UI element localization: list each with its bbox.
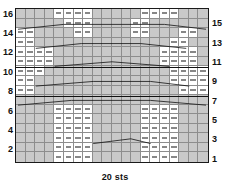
row-number-left-6: 6 [1, 107, 13, 116]
chart-area: 16 14 12 10 8 6 4 2 15 13 11 9 7 5 3 1 [0, 0, 230, 190]
knitting-chart-figure: 16 14 12 10 8 6 4 2 15 13 11 9 7 5 3 1 [0, 0, 230, 190]
row-number-right-13: 13 [212, 39, 228, 48]
row-number-right-3: 3 [212, 135, 228, 144]
row-number-right-15: 15 [212, 19, 228, 28]
row-number-left-10: 10 [1, 68, 13, 77]
row-number-right-5: 5 [212, 116, 228, 125]
row-number-left-4: 4 [1, 126, 13, 135]
chart-caption: 20 sts [0, 172, 230, 182]
row-number-right-1: 1 [212, 155, 228, 164]
row-number-left-14: 14 [1, 29, 13, 38]
stitch-grid [15, 8, 209, 163]
row-number-left-8: 8 [1, 87, 13, 96]
row-number-right-9: 9 [212, 77, 228, 86]
row-number-left-16: 16 [1, 10, 13, 19]
row-number-right-11: 11 [212, 58, 228, 67]
row-number-left-2: 2 [1, 145, 13, 154]
row-number-left-12: 12 [1, 48, 13, 57]
cable-lines-overlay [16, 9, 208, 162]
row-number-right-7: 7 [212, 97, 228, 106]
